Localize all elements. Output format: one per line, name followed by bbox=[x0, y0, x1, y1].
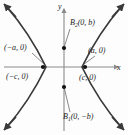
hyperbola-right-bottom-arrow bbox=[112, 117, 124, 130]
hyperbola-left-top-arrow bbox=[4, 4, 16, 17]
hyperbola-right-top-arrow bbox=[112, 4, 124, 17]
label-vertex-left: (−a, 0) bbox=[4, 44, 27, 52]
label-b1: B1(0, −b) bbox=[63, 113, 93, 121]
point-focus-right bbox=[83, 65, 87, 69]
label-b1-coords: (0, −b) bbox=[71, 112, 94, 121]
leader-line-b2 bbox=[65, 29, 71, 46]
hyperbola-left-bottom-arrow bbox=[4, 117, 16, 130]
hyperbola-figure: B2(0, b) B1(0, −b) (−a, 0) (−c, 0) (a, 0… bbox=[0, 0, 128, 135]
label-b1-subscript: 1 bbox=[68, 116, 71, 122]
label-b2-coords: (0, b) bbox=[78, 18, 95, 27]
label-vertex-right: (a, 0) bbox=[88, 47, 105, 55]
point-conjugate-top bbox=[62, 46, 66, 50]
label-b2-subscript: 2 bbox=[75, 22, 78, 28]
label-b2: B2(0, b) bbox=[70, 19, 95, 27]
point-focus-left bbox=[41, 65, 45, 69]
leader-line-b1 bbox=[65, 89, 71, 112]
label-focus-left: (−c, 0) bbox=[6, 73, 28, 81]
label-focus-right: (c, 0) bbox=[79, 74, 96, 82]
point-conjugate-bottom bbox=[62, 85, 66, 89]
y-axis-label: y bbox=[58, 3, 62, 11]
x-axis-label: x bbox=[117, 64, 121, 72]
